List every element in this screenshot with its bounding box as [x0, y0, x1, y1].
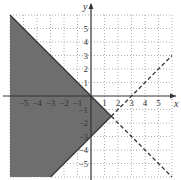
- graph: x y −5−4−3−2−11234554321−1−2−3−4−5: [0, 0, 181, 180]
- dashed-boundary-line: [111, 116, 172, 177]
- x-tick-label: 5: [156, 98, 161, 108]
- x-tick-label: −5: [19, 98, 29, 108]
- x-tick-label: 2: [116, 98, 121, 108]
- y-tick-label: 1: [84, 78, 89, 88]
- x-tick-label: −3: [46, 98, 56, 108]
- y-tick-label: −5: [78, 159, 88, 169]
- x-tick-label: −2: [59, 98, 69, 108]
- x-tick-label: 4: [143, 98, 148, 108]
- y-tick-label: 5: [84, 24, 89, 34]
- y-axis-label: y: [82, 1, 88, 12]
- y-axis-arrow-icon: [89, 3, 94, 9]
- x-tick-label: 3: [129, 98, 134, 108]
- y-tick-label: 2: [84, 64, 89, 74]
- dashed-boundary-line: [111, 56, 172, 117]
- x-axis-label: x: [173, 98, 179, 109]
- x-tick-label: 1: [102, 98, 107, 108]
- y-tick-label: −3: [78, 132, 88, 142]
- y-tick-label: −4: [78, 145, 88, 155]
- x-tick-label: −4: [32, 98, 42, 108]
- y-tick-label: 4: [84, 37, 89, 47]
- y-tick-label: −2: [78, 118, 88, 128]
- y-tick-label: −1: [78, 105, 88, 115]
- y-tick-label: 3: [84, 51, 89, 61]
